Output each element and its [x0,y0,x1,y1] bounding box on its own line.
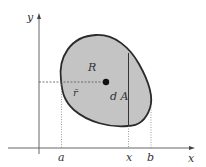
x-axis-arrow-icon [189,146,195,150]
region-label: R [87,61,96,74]
tick-label-b: b [147,151,154,164]
centroid-point [103,79,109,85]
y-axis-arrow-icon [37,13,41,19]
diagram-canvas: y x a x b R r̄ d A [0,0,206,167]
x-axis-label: x [188,152,195,165]
centroid-region-diagram: y x a x b R r̄ d A [0,0,206,167]
tick-label-a: a [58,151,65,164]
y-axis-label: y [26,11,34,24]
area-element-label: d A [110,90,129,103]
tick-label-x: x [126,151,133,164]
